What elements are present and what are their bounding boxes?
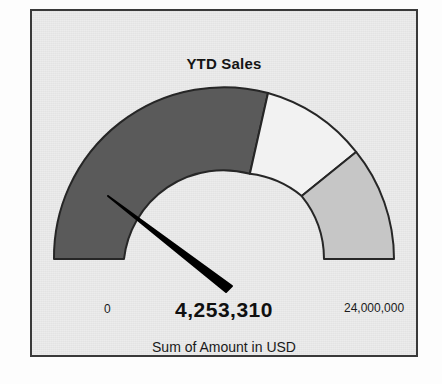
gauge-value-label: 4,253,310 [32,298,416,322]
chart-title: YTD Sales [32,55,416,72]
gauge-footer-label: Sum of Amount in USD [32,339,416,355]
chart-panel: YTD Sales 0 24,000,000 4,253,310 Sum of … [30,9,418,357]
gauge-chart-screenshot: YTD Sales 0 24,000,000 4,253,310 Sum of … [0,0,442,384]
